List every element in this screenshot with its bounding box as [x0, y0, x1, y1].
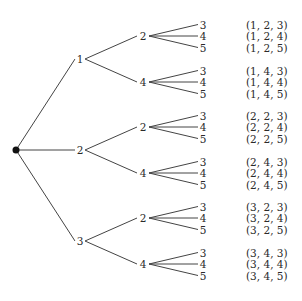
- branch-line: [85, 241, 137, 264]
- node-leaf: 3: [199, 156, 208, 167]
- node-leaf: 5: [199, 88, 208, 99]
- node-level2: 4: [139, 259, 148, 270]
- branch-line: [149, 36, 198, 48]
- outcome-tuple: (3, 4, 3): [246, 247, 288, 258]
- branch-line: [149, 162, 198, 174]
- node-level2: 2: [139, 213, 148, 224]
- node-leaf: 4: [199, 31, 208, 42]
- node-leaf: 5: [199, 179, 208, 190]
- branch-line: [149, 218, 198, 230]
- node-level1: 3: [76, 236, 85, 247]
- node-level2: 4: [139, 77, 148, 88]
- outcome-tuple: (3, 4, 4): [246, 259, 288, 270]
- branch-line: [149, 82, 198, 94]
- outcome-tuple: (1, 2, 4): [246, 31, 288, 42]
- outcome-tuple: (3, 2, 4): [246, 213, 288, 224]
- node-leaf: 5: [199, 133, 208, 144]
- branch-line: [149, 173, 198, 185]
- node-leaf: 4: [199, 168, 208, 179]
- root-node-dot: [13, 147, 20, 154]
- outcome-tuple: (2, 2, 4): [246, 122, 288, 133]
- branch-line: [149, 253, 198, 265]
- outcome-tuple: (3, 4, 5): [246, 270, 288, 281]
- node-leaf: 4: [199, 122, 208, 133]
- outcome-tuple: (3, 2, 3): [246, 201, 288, 212]
- node-leaf: 4: [199, 259, 208, 270]
- branch-line: [85, 59, 137, 82]
- outcome-tuple: (2, 4, 4): [246, 168, 288, 179]
- node-leaf: 5: [199, 270, 208, 281]
- outcome-tuple: (1, 4, 3): [246, 65, 288, 76]
- node-leaf: 4: [199, 213, 208, 224]
- node-level2: 4: [139, 168, 148, 179]
- outcome-tuple: (1, 4, 5): [246, 88, 288, 99]
- node-level2: 2: [139, 31, 148, 42]
- branch-line: [149, 127, 198, 139]
- branch-line: [149, 116, 198, 128]
- branch-line: [149, 207, 198, 219]
- branch-line: [149, 264, 198, 276]
- branch-line: [85, 127, 137, 150]
- outcome-tuple: (2, 2, 5): [246, 133, 288, 144]
- outcome-tuple: (3, 2, 5): [246, 224, 288, 235]
- node-leaf: 5: [199, 224, 208, 235]
- node-leaf: 3: [199, 19, 208, 30]
- node-level2: 2: [139, 122, 148, 133]
- node-leaf: 3: [199, 110, 208, 121]
- node-leaf: 3: [199, 65, 208, 76]
- outcome-tuple: (1, 4, 4): [246, 77, 288, 88]
- branch-line: [85, 218, 137, 241]
- node-leaf: 5: [199, 42, 208, 53]
- outcome-tuple: (1, 2, 3): [246, 19, 288, 30]
- node-leaf: 3: [199, 201, 208, 212]
- branch-line: [149, 25, 198, 37]
- outcome-tuple: (2, 2, 3): [246, 110, 288, 121]
- outcome-tuple: (1, 2, 5): [246, 42, 288, 53]
- node-level1: 1: [76, 54, 85, 65]
- outcome-tuple: (2, 4, 3): [246, 156, 288, 167]
- node-leaf: 3: [199, 247, 208, 258]
- branch-line: [16, 59, 75, 150]
- branch-line: [85, 150, 137, 173]
- node-level1: 2: [76, 145, 85, 156]
- branch-line: [85, 36, 137, 59]
- branch-line: [149, 71, 198, 83]
- branch-line: [16, 150, 75, 241]
- outcome-tuple: (2, 4, 5): [246, 179, 288, 190]
- node-leaf: 4: [199, 77, 208, 88]
